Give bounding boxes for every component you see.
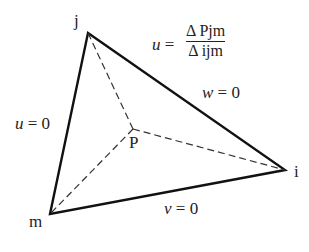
formula-fraction: Δ Pjm Δ ijm (186, 23, 225, 60)
vertex-label-j: j (74, 12, 79, 29)
formula-denominator: Δ ijm (186, 43, 225, 60)
triangle-coordinates-diagram: j i m P u = 0 w = 0 v = 0 u = Δ Pjm Δ ij… (0, 0, 309, 252)
edge-label-mi: v = 0 (164, 200, 198, 217)
formula-lhs: u = (152, 36, 174, 53)
vertex-label-i: i (294, 163, 299, 180)
dashed-line-p-i (133, 129, 285, 170)
edge-label-jm: u = 0 (15, 115, 50, 132)
vertex-label-m: m (29, 213, 42, 230)
formula-numerator: Δ Pjm (186, 23, 225, 40)
edge-label-ji: w = 0 (202, 84, 240, 101)
point-label-p: P (129, 134, 138, 151)
triangle-ijm (50, 33, 285, 214)
